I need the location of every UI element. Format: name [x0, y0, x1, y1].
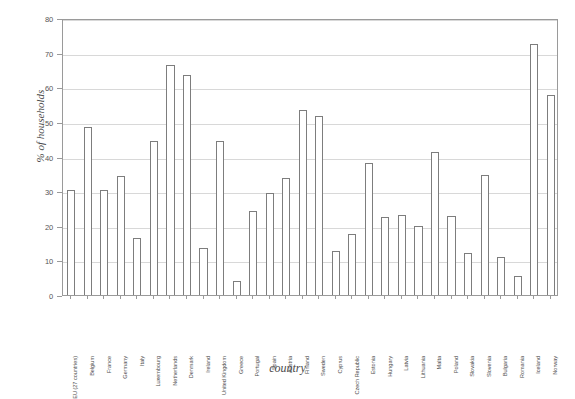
x-axis-title: country [0, 361, 575, 376]
bar [547, 95, 555, 295]
y-tick-label: 40 [45, 153, 53, 162]
bar [530, 44, 538, 295]
bar [233, 281, 241, 295]
bar [249, 211, 257, 295]
y-tick-label: 30 [45, 188, 53, 197]
bar [414, 226, 422, 295]
bar [299, 110, 307, 295]
bar [447, 216, 455, 295]
bar [282, 178, 290, 295]
bar [150, 141, 158, 295]
y-tick-label: 50 [45, 118, 53, 127]
bar [67, 190, 75, 295]
bar-series [63, 20, 557, 295]
bar [216, 141, 224, 295]
plot-area [62, 19, 558, 296]
bar [166, 65, 174, 295]
bar [183, 75, 191, 295]
y-tick-label: 70 [45, 49, 53, 58]
x-axis-category-labels: EU (27 countries)BelgiumFranceGermanyIta… [62, 299, 558, 359]
bar [117, 176, 125, 295]
bar [464, 253, 472, 295]
bar [100, 190, 108, 295]
bar [365, 163, 373, 295]
bar [481, 175, 489, 295]
bar [348, 234, 356, 295]
bar [133, 238, 141, 295]
y-tick-label: 10 [45, 257, 53, 266]
bar [497, 257, 505, 295]
y-tick-label: 80 [45, 15, 53, 24]
bar [199, 248, 207, 295]
y-tick-label: 60 [45, 84, 53, 93]
bar [431, 152, 439, 295]
bar [514, 276, 522, 295]
bar [332, 251, 340, 295]
bar [381, 217, 389, 295]
y-tick-label: 20 [45, 222, 53, 231]
bar [266, 193, 274, 295]
bar [315, 116, 323, 295]
y-axis-ticks: 01020304050607080 [0, 19, 62, 296]
bar [398, 215, 406, 295]
bar [84, 127, 92, 295]
y-tick-label: 0 [49, 292, 53, 301]
